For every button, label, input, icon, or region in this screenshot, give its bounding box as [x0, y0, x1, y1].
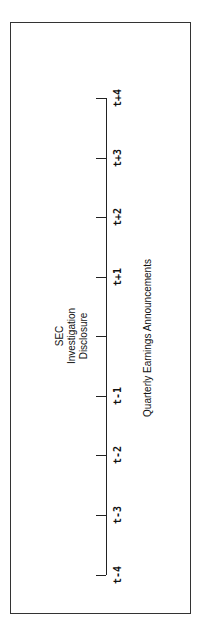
event-label-line: Investigation: [66, 308, 78, 364]
tick-t-plus-4: [96, 98, 106, 99]
tick-t-plus-1: [96, 277, 106, 278]
tick-label: t-4: [112, 566, 123, 584]
tick-event: [96, 336, 106, 337]
event-label: SEC Investigation Disclosure: [54, 308, 90, 364]
timeline-axis: [106, 98, 107, 575]
event-label-line: SEC: [54, 308, 66, 364]
tick-t-plus-3: [96, 158, 106, 159]
tick-t-minus-2: [96, 455, 106, 456]
diagram-frame: [10, 22, 191, 614]
tick-label: t+2: [112, 208, 123, 226]
axis-label: Quarterly Earnings Announcements: [142, 259, 153, 417]
tick-t-plus-2: [96, 217, 106, 218]
tick-label: t+3: [112, 149, 123, 167]
tick-t-minus-4: [96, 575, 106, 576]
tick-label: t-2: [112, 446, 123, 464]
tick-t-minus-3: [96, 515, 106, 516]
tick-label: t+4: [112, 89, 123, 107]
tick-label: t+1: [112, 268, 123, 286]
tick-label: t-1: [112, 387, 123, 405]
tick-t-minus-1: [96, 396, 106, 397]
tick-label: t-3: [112, 506, 123, 524]
event-label-line: Disclosure: [78, 308, 90, 364]
